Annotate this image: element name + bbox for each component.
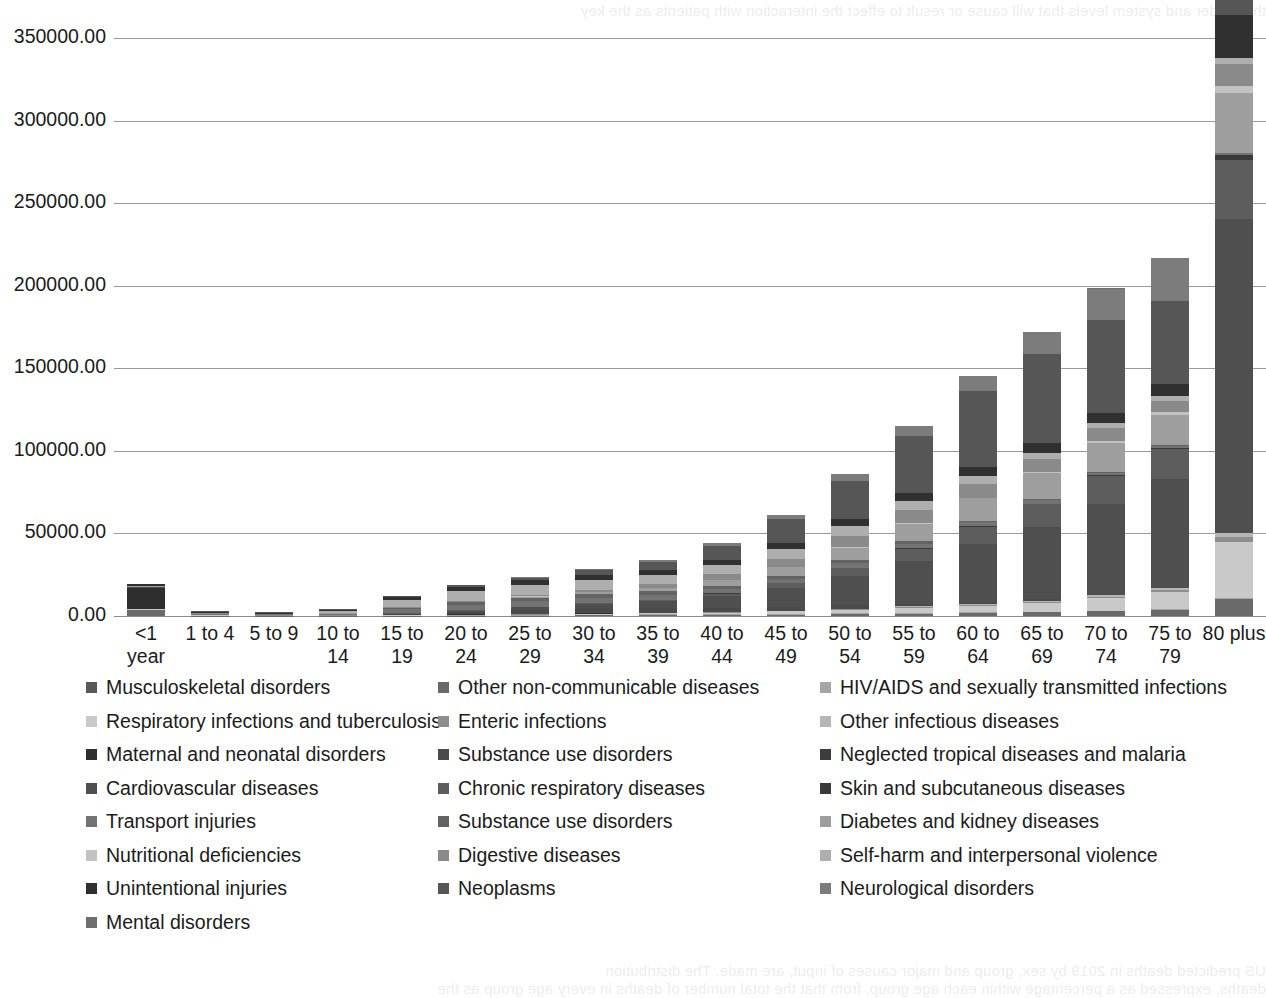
stacked-bar[interactable] (127, 584, 165, 616)
bar-segment[interactable] (831, 614, 869, 616)
stacked-bar[interactable] (1023, 332, 1061, 616)
bar-segment[interactable] (511, 585, 549, 596)
bar-segment[interactable] (1215, 542, 1253, 598)
bar-segment[interactable] (959, 527, 997, 544)
bar-segment[interactable] (127, 588, 165, 609)
bar-segment[interactable] (639, 615, 677, 616)
bar-segment[interactable] (639, 575, 677, 584)
legend-item[interactable]: Nutritional deficiencies (86, 844, 438, 867)
bar-segment[interactable] (959, 606, 997, 613)
bar-segment[interactable] (639, 562, 677, 570)
legend-item[interactable]: Neoplasms (438, 877, 820, 900)
bar-segment[interactable] (1023, 527, 1061, 600)
bar-segment[interactable] (639, 601, 677, 608)
bar-segment[interactable] (1087, 598, 1125, 611)
stacked-bar[interactable] (831, 474, 869, 616)
bar-segment[interactable] (959, 613, 997, 616)
bar-segment[interactable] (831, 568, 869, 576)
bar-segment[interactable] (831, 519, 869, 526)
bar-segment[interactable] (895, 614, 933, 616)
legend-item[interactable]: HIV/AIDS and sexually transmitted infect… (820, 676, 1260, 699)
bar-segment[interactable] (1023, 612, 1061, 616)
stacked-bar[interactable] (319, 609, 357, 616)
bar-segment[interactable] (1023, 473, 1061, 499)
legend-item[interactable]: Transport injuries (86, 810, 438, 833)
bar-segment[interactable] (1087, 443, 1125, 473)
bar-segment[interactable] (1215, 64, 1253, 85)
bar-segment[interactable] (1215, 599, 1253, 616)
bar-segment[interactable] (895, 561, 933, 604)
bar-segment[interactable] (1023, 443, 1061, 453)
bar-segment[interactable] (1087, 611, 1125, 616)
legend-item[interactable]: Maternal and neonatal disorders (86, 743, 438, 766)
bar-segment[interactable] (831, 548, 869, 561)
stacked-bar[interactable] (255, 612, 293, 616)
bar-segment[interactable] (895, 436, 933, 492)
stacked-bar[interactable] (703, 543, 741, 616)
legend-item[interactable]: Skin and subcutaneous diseases (820, 777, 1260, 800)
legend-item[interactable]: Substance use disorders (438, 743, 820, 766)
bar-segment[interactable] (767, 559, 805, 568)
bar-segment[interactable] (1087, 320, 1125, 412)
legend-item[interactable]: Mental disorders (86, 911, 438, 934)
bar-segment[interactable] (1151, 610, 1189, 616)
bar-segment[interactable] (767, 549, 805, 558)
bar-segment[interactable] (959, 476, 997, 484)
bar-segment[interactable] (1023, 459, 1061, 472)
legend-item[interactable]: Digestive diseases (438, 844, 820, 867)
bar-segment[interactable] (575, 615, 613, 616)
bar-segment[interactable] (1023, 354, 1061, 443)
bar-segment[interactable] (959, 376, 997, 391)
bar-segment[interactable] (1151, 401, 1189, 413)
legend-item[interactable]: Self-harm and interpersonal violence (820, 844, 1260, 867)
stacked-bar[interactable] (895, 426, 933, 616)
bar-segment[interactable] (1151, 258, 1189, 301)
bar-segment[interactable] (447, 591, 485, 601)
stacked-bar[interactable] (767, 515, 805, 616)
legend-item[interactable]: Unintentional injuries (86, 877, 438, 900)
bar-segment[interactable] (831, 526, 869, 536)
legend-item[interactable]: Respiratory infections and tuberculosis (86, 710, 438, 733)
bar-segment[interactable] (1087, 476, 1125, 503)
bar-segment[interactable] (703, 596, 741, 608)
bar-segment[interactable] (959, 498, 997, 520)
bar-segment[interactable] (1151, 479, 1189, 588)
bar-segment[interactable] (895, 426, 933, 436)
stacked-bar[interactable] (191, 611, 229, 616)
bar-segment[interactable] (959, 391, 997, 467)
bar-segment[interactable] (831, 474, 869, 481)
bar-segment[interactable] (1215, 15, 1253, 58)
bar-segment[interactable] (1215, 93, 1253, 152)
bar-segment[interactable] (1151, 384, 1189, 397)
stacked-bar[interactable] (447, 585, 485, 616)
bar-segment[interactable] (959, 467, 997, 476)
bar-segment[interactable] (1023, 332, 1061, 353)
bar-segment[interactable] (959, 484, 997, 498)
stacked-bar[interactable] (511, 577, 549, 616)
stacked-bar[interactable] (1215, 0, 1253, 616)
bar-segment[interactable] (1215, 219, 1253, 533)
legend-item[interactable]: Enteric infections (438, 710, 820, 733)
legend-item[interactable]: Neurological disorders (820, 877, 1260, 900)
legend-item[interactable]: Neglected tropical diseases and malaria (820, 743, 1260, 766)
bar-segment[interactable] (1087, 289, 1125, 320)
bar-segment[interactable] (895, 493, 933, 502)
bar-segment[interactable] (1151, 415, 1189, 446)
bar-segment[interactable] (1023, 603, 1061, 612)
bar-segment[interactable] (1151, 449, 1189, 479)
legend-item[interactable]: Musculoskeletal disorders (86, 676, 438, 699)
stacked-bar[interactable] (639, 560, 677, 616)
bar-segment[interactable] (1215, 0, 1253, 15)
stacked-bar[interactable] (1087, 288, 1125, 616)
bar-segment[interactable] (1087, 504, 1125, 595)
stacked-bar[interactable] (1151, 258, 1189, 616)
stacked-bar[interactable] (959, 376, 997, 616)
stacked-bar[interactable] (383, 596, 421, 616)
bar-segment[interactable] (1151, 592, 1189, 609)
legend-item[interactable]: Chronic respiratory diseases (438, 777, 820, 800)
bar-segment[interactable] (831, 536, 869, 547)
bar-segment[interactable] (1215, 160, 1253, 219)
bar-segment[interactable] (895, 524, 933, 541)
bar-segment[interactable] (767, 519, 805, 543)
bar-segment[interactable] (703, 565, 741, 574)
